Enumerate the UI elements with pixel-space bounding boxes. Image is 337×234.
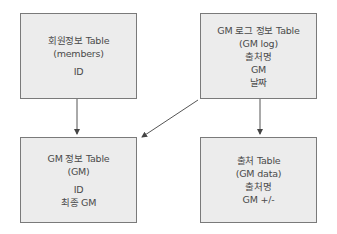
- box-alias: (GM): [67, 165, 89, 178]
- box-fields: ID: [74, 65, 84, 78]
- box-title: GM 정보 Table: [48, 152, 110, 165]
- arrow-gmlog-to-gm: [142, 100, 198, 137]
- box-fields: 출처명 GM 날짜: [245, 50, 271, 89]
- table-relationship-diagram: 회원정보 Table (members) ID GM 로그 정보 Table (…: [0, 0, 337, 234]
- field: 최종 GM: [61, 196, 97, 209]
- box-title: 회원정보 Table: [48, 34, 110, 47]
- field: 출처명: [245, 50, 271, 63]
- field: ID: [74, 183, 84, 196]
- gm-table-box: GM 정보 Table (GM) ID 최종 GM: [20, 137, 137, 223]
- box-alias: (GM log): [239, 37, 278, 50]
- box-alias: (GM data): [236, 167, 282, 180]
- members-table-box: 회원정보 Table (members) ID: [20, 13, 137, 99]
- gm-data-table-box: 출처 Table (GM data) 출처명 GM +/-: [200, 137, 317, 223]
- field: GM: [251, 63, 266, 76]
- box-title: 출처 Table: [237, 154, 281, 167]
- field: ID: [74, 65, 84, 78]
- field: 출처명: [245, 180, 271, 193]
- box-title: GM 로그 정보 Table: [217, 24, 299, 37]
- box-alias: (members): [53, 47, 104, 60]
- gm-log-table-box: GM 로그 정보 Table (GM log) 출처명 GM 날짜: [200, 13, 317, 99]
- box-fields: 출처명 GM +/-: [243, 180, 275, 206]
- field: GM +/-: [243, 193, 275, 206]
- box-fields: ID 최종 GM: [61, 183, 97, 209]
- field: 날짜: [250, 76, 268, 89]
